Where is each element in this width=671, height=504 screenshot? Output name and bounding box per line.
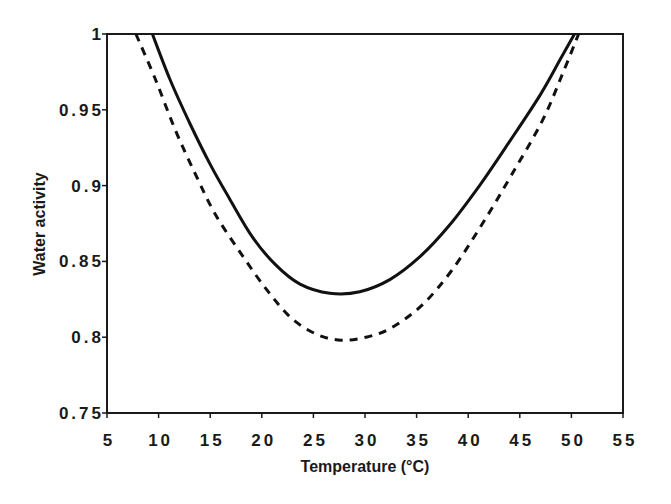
y-tick-label: 0.8 (71, 328, 104, 347)
y-axis-tick-labels: 0.750.80.850.90.951 (59, 25, 104, 423)
y-tick-label: 0.95 (59, 101, 104, 120)
x-tick-label: 20 (251, 431, 276, 450)
y-tick-label: 1 (92, 25, 104, 44)
chart: 510152025303540455055 0.750.80.850.90.95… (0, 0, 671, 504)
y-tick-label: 0.75 (59, 404, 104, 423)
x-tick-label: 10 (148, 431, 173, 450)
y-tick-label: 0.9 (71, 177, 104, 196)
x-tick-label: 50 (561, 431, 586, 450)
x-tick-label: 5 (103, 431, 115, 450)
y-tick-label: 0.85 (59, 252, 104, 271)
x-tick-label: 15 (200, 431, 225, 450)
x-tick-label: 30 (355, 431, 380, 450)
x-axis-tick-labels: 510152025303540455055 (103, 431, 638, 450)
x-axis-title: Temperature (°C) (301, 458, 430, 475)
x-tick-label: 45 (509, 431, 534, 450)
y-axis-title: Water activity (31, 172, 48, 276)
x-tick-label: 35 (406, 431, 431, 450)
x-tick-label: 25 (303, 431, 328, 450)
x-tick-label: 40 (458, 431, 483, 450)
x-tick-label: 55 (613, 431, 638, 450)
plot-frame (107, 34, 623, 413)
